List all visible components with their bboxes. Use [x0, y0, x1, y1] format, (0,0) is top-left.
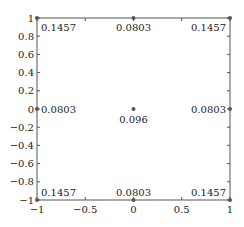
y-tick-label: −0.8	[10, 176, 34, 187]
data-point-marker	[228, 16, 232, 20]
x-tick-label: 0	[130, 204, 136, 215]
x-tick-label: 0.5	[174, 204, 190, 215]
x-tick-label: −1	[30, 204, 45, 215]
data-point-marker	[132, 16, 136, 20]
data-point-marker	[35, 16, 39, 20]
data-point-label: 0.0803	[191, 104, 226, 115]
data-point-label: 0.0803	[116, 22, 151, 33]
y-tick-label: 0.6	[18, 49, 34, 60]
data-point-marker	[132, 198, 136, 202]
data-point-label: 0.1457	[191, 22, 226, 33]
y-tick-label: 0.8	[18, 31, 34, 42]
y-tick-label: 0.2	[18, 85, 34, 96]
data-point-label: 0.0803	[116, 187, 151, 198]
data-point-label: 0.096	[119, 114, 148, 125]
data-points: 0.14570.08030.14570.08030.0960.08030.145…	[35, 16, 232, 202]
y-tick-label: −0.2	[10, 122, 34, 133]
x-tick-label: 1	[227, 204, 233, 215]
x-tick-label: −0.5	[73, 204, 97, 215]
scatter-chart: −1−0.8−0.6−0.4−0.200.20.40.60.81 −1−0.50…	[0, 0, 244, 227]
data-point-marker	[228, 107, 232, 111]
data-point-marker	[228, 198, 232, 202]
y-tick-label: −0.6	[10, 158, 34, 169]
data-point-label: 0.1457	[41, 187, 76, 198]
data-point-marker	[132, 107, 136, 111]
data-point-marker	[35, 107, 39, 111]
y-tick-label: 0	[28, 104, 34, 115]
y-tick-label: −0.4	[10, 140, 34, 151]
data-point-marker	[35, 198, 39, 202]
y-tick-label: 1	[28, 13, 34, 24]
data-point-label: 0.0803	[41, 104, 76, 115]
y-tick-label: 0.4	[18, 67, 34, 78]
data-point-label: 0.1457	[41, 22, 76, 33]
data-point-label: 0.1457	[191, 187, 226, 198]
